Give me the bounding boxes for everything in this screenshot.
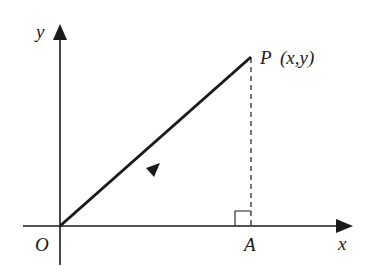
- y-axis-arrow-icon: [53, 24, 67, 40]
- right-angle-marker: [235, 211, 251, 226]
- vector-direction-arrow-icon: [146, 163, 160, 177]
- y-axis-label: y: [34, 21, 45, 42]
- vector-diagram: y x O A P (x,y): [0, 0, 368, 276]
- origin-label: O: [35, 234, 49, 255]
- x-axis-arrow-icon: [336, 219, 353, 233]
- point-a-label: A: [242, 234, 256, 255]
- point-p-label: P: [259, 47, 272, 68]
- point-p-coords: (x,y): [280, 47, 314, 69]
- vector-op: [60, 57, 251, 226]
- x-axis-label: x: [337, 233, 347, 254]
